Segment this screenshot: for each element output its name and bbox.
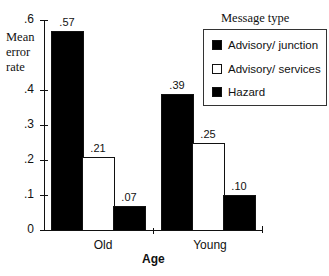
bar-value-label: .25 bbox=[188, 128, 228, 140]
x-axis-label: Age bbox=[142, 252, 165, 266]
legend-title: Message type bbox=[221, 11, 289, 26]
y-tick-mark bbox=[40, 230, 48, 231]
y-tick-mark bbox=[40, 160, 48, 161]
legend-item-advisory-junction: Advisory/ junction bbox=[212, 39, 318, 51]
y-tick-mark bbox=[40, 195, 48, 196]
legend-swatch-black bbox=[212, 40, 222, 50]
bar-old-advisory-junction bbox=[51, 31, 84, 232]
x-tick-end bbox=[262, 226, 263, 233]
y-tick-label: .2 bbox=[14, 152, 34, 166]
y-label-line: rate bbox=[6, 60, 34, 75]
legend-item-hazard: Hazard bbox=[212, 86, 265, 98]
legend-swatch-white bbox=[212, 64, 222, 74]
legend-item-advisory-services: Advisory/ services bbox=[212, 63, 321, 75]
category-label-young: Young bbox=[185, 238, 235, 252]
y-label-line: error bbox=[6, 45, 34, 60]
y-tick-label: 0 bbox=[14, 222, 34, 236]
y-tick-label: .3 bbox=[14, 117, 34, 131]
y-tick-label: .1 bbox=[14, 187, 34, 201]
y-axis-label: Mean error rate bbox=[6, 30, 34, 75]
bar-value-label: .21 bbox=[78, 142, 118, 154]
y-tick-label: .6 bbox=[14, 12, 34, 26]
legend-label: Hazard bbox=[228, 86, 265, 98]
legend-label: Advisory/ services bbox=[228, 63, 321, 75]
legend-swatch-black bbox=[212, 87, 222, 97]
legend: Advisory/ junction Advisory/ services Ha… bbox=[203, 29, 327, 106]
bar-young-advisory-junction bbox=[161, 94, 194, 232]
bar-value-label: .39 bbox=[157, 79, 197, 91]
y-tick-label: .4 bbox=[14, 82, 34, 96]
y-tick-mark bbox=[40, 125, 48, 126]
bar-value-label: .57 bbox=[47, 16, 87, 28]
x-tick-divider bbox=[153, 228, 154, 234]
y-label-line: Mean bbox=[6, 30, 34, 45]
bar-value-label: .07 bbox=[109, 191, 149, 203]
category-label-old: Old bbox=[83, 238, 123, 252]
legend-label: Advisory/ junction bbox=[228, 39, 318, 51]
bar-old-hazard bbox=[113, 206, 146, 232]
bar-young-hazard bbox=[223, 195, 256, 231]
y-tick-mark bbox=[40, 90, 48, 91]
bar-value-label: .10 bbox=[219, 180, 259, 192]
